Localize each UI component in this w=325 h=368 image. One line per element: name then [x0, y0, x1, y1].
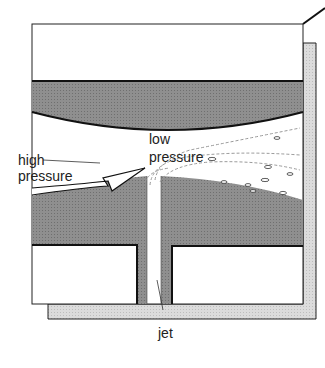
high-pressure-label-2: pressure [18, 168, 73, 184]
low-pressure-label-1: low [149, 131, 171, 147]
venturi-diagram: high pressure low pressure jet [0, 0, 325, 368]
low-pressure-label-2: pressure [149, 149, 204, 165]
jet-label: jet [157, 325, 173, 341]
high-pressure-label-1: high [18, 152, 44, 168]
